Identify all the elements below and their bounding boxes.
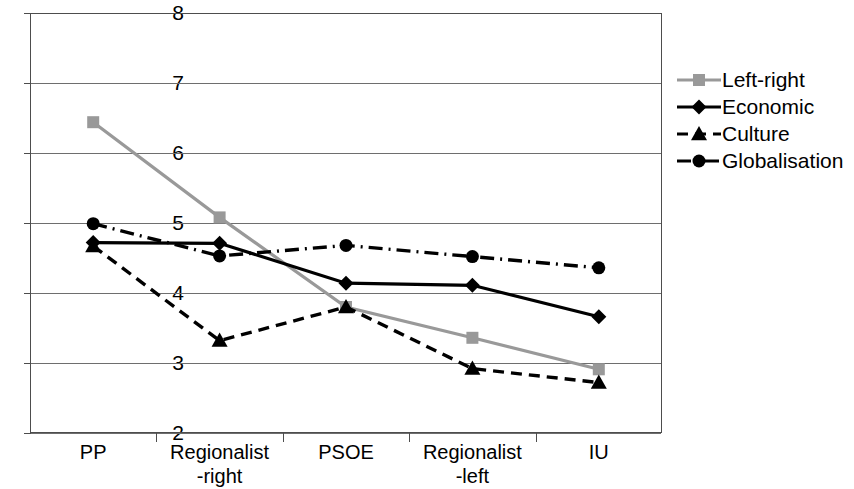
legend-label: Economic	[722, 96, 814, 118]
gridline-y-7	[31, 83, 661, 84]
legend-key-triangle-icon	[676, 123, 722, 145]
legend-label: Culture	[722, 123, 790, 145]
legend-key-circle-icon	[676, 150, 722, 172]
x-category-label-4: IU	[536, 440, 662, 464]
gridline-y-6	[31, 153, 661, 154]
gridline-y-3	[31, 363, 661, 364]
legend: Left-rightEconomicCultureGlobalisation	[676, 66, 854, 174]
line-chart: 2345678 PPRegionalist-rightPSOERegionali…	[0, 0, 854, 489]
x-category-line2: -right	[156, 464, 282, 488]
gridline-y-2	[31, 433, 661, 434]
x-category-line1: IU	[536, 440, 662, 464]
legend-key-diamond-icon	[676, 96, 722, 118]
x-category-label-2: PSOE	[283, 440, 409, 464]
x-category-label-3: Regionalist-left	[409, 440, 535, 488]
legend-label: Left-right	[722, 69, 805, 91]
gridline-y-5	[31, 223, 661, 224]
x-category-line1: PP	[30, 440, 156, 464]
x-category-label-0: PP	[30, 440, 156, 464]
legend-item-culture[interactable]: Culture	[676, 120, 854, 147]
legend-item-economic[interactable]: Economic	[676, 93, 854, 120]
x-category-line1: Regionalist	[409, 440, 535, 464]
x-category-line2: -left	[409, 464, 535, 488]
gridline-y-4	[31, 293, 661, 294]
legend-key-square-icon	[676, 69, 722, 91]
plot-area	[30, 13, 662, 433]
legend-item-left-right[interactable]: Left-right	[676, 66, 854, 93]
x-category-line1: PSOE	[283, 440, 409, 464]
legend-item-globalisation[interactable]: Globalisation	[676, 147, 854, 174]
x-category-label-1: Regionalist-right	[156, 440, 282, 488]
legend-label: Globalisation	[722, 150, 843, 172]
y-tick-mark-2	[24, 433, 31, 434]
x-category-line1: Regionalist	[156, 440, 282, 464]
